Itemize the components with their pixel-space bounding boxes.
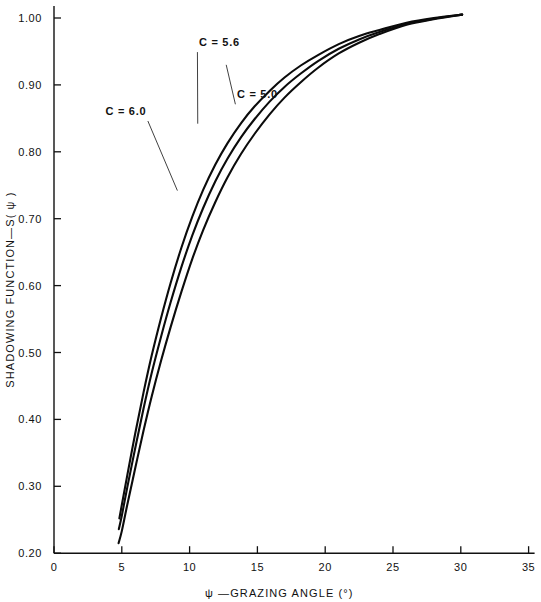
annotation-leader-line — [148, 121, 178, 191]
y-tick-label: 0.20 — [18, 547, 42, 559]
y-axis-title: SHADOWING FUNCTION—S( ψ ) — [4, 192, 16, 388]
y-tick-label: 0.80 — [18, 146, 42, 158]
figure-container: 05101520253035 0.200.300.400.500.600.700… — [0, 0, 541, 602]
data-curves — [119, 15, 463, 544]
x-tick-label: 25 — [386, 561, 399, 573]
y-tick-labels: 0.200.300.400.500.600.700.800.901.00 — [18, 12, 42, 559]
x-tick-label: 5 — [118, 561, 125, 573]
x-tick-label: 0 — [51, 561, 58, 573]
y-tick-label: 0.70 — [18, 213, 42, 225]
x-tick-label: 30 — [454, 561, 467, 573]
series-annotations: C = 5.6C = 6.0C = 5.0 — [106, 36, 278, 191]
y-tick-label: 0.90 — [18, 79, 42, 91]
annotation-label: C = 5.0 — [237, 88, 278, 100]
curve-c-5.0 — [119, 15, 463, 544]
y-tick-label: 0.60 — [18, 280, 42, 292]
x-axis-title: ψ —GRAZING ANGLE (°) — [205, 587, 354, 599]
y-tick-label: 0.50 — [18, 347, 42, 359]
y-tick-label: 1.00 — [18, 12, 42, 24]
shadowing-function-chart: 05101520253035 0.200.300.400.500.600.700… — [0, 0, 541, 602]
x-tick-label: 20 — [318, 561, 331, 573]
annotation-leader-line — [226, 65, 235, 104]
annotation-label: C = 5.6 — [199, 36, 240, 48]
x-tick-label: 10 — [183, 561, 196, 573]
x-tick-label: 35 — [522, 561, 535, 573]
x-tick-label: 15 — [251, 561, 264, 573]
tick-marks — [54, 18, 529, 553]
x-tick-labels: 05101520253035 — [51, 561, 536, 573]
y-tick-label: 0.40 — [18, 413, 42, 425]
y-tick-label: 0.30 — [18, 480, 42, 492]
annotation-label: C = 6.0 — [106, 105, 147, 117]
